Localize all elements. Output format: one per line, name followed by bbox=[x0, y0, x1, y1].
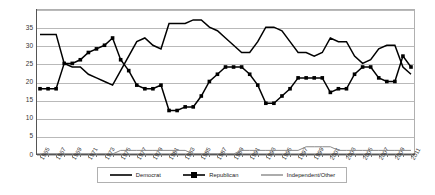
series-marker bbox=[240, 65, 244, 69]
series-marker bbox=[248, 72, 252, 76]
series-marker bbox=[151, 87, 155, 91]
series-marker bbox=[401, 54, 405, 58]
series-marker bbox=[79, 58, 83, 62]
series-marker bbox=[216, 72, 220, 76]
y-tick-label: 15 bbox=[3, 96, 33, 103]
series-marker bbox=[95, 47, 99, 51]
series-marker bbox=[353, 72, 357, 76]
legend-label-democrat: Democrat bbox=[136, 172, 161, 178]
series-marker bbox=[377, 76, 381, 80]
series-marker bbox=[393, 80, 397, 84]
independent-line-swatch-icon bbox=[260, 171, 284, 179]
series-marker bbox=[159, 83, 163, 87]
series-marker bbox=[200, 94, 204, 98]
series-marker bbox=[385, 80, 389, 84]
series-marker bbox=[288, 87, 292, 91]
series-marker bbox=[62, 62, 66, 66]
series-marker bbox=[409, 65, 413, 69]
y-tick-label: 10 bbox=[3, 114, 33, 121]
series-lines bbox=[36, 9, 415, 154]
series-marker bbox=[232, 65, 236, 69]
series-marker bbox=[312, 76, 316, 80]
series-marker bbox=[103, 43, 107, 47]
y-tick-label: 20 bbox=[3, 78, 33, 85]
series-marker bbox=[345, 87, 349, 91]
series-marker bbox=[119, 58, 123, 62]
y-tick-label: 5 bbox=[3, 132, 33, 139]
series-marker bbox=[304, 76, 308, 80]
series-marker bbox=[256, 83, 260, 87]
series-marker bbox=[54, 87, 58, 91]
series-marker bbox=[264, 101, 268, 105]
line-chart: 05101520253035 1965196719691971197319751… bbox=[0, 0, 435, 195]
y-tick-label: 35 bbox=[3, 24, 33, 31]
series-marker bbox=[143, 87, 147, 91]
series-marker bbox=[167, 109, 171, 113]
legend-entry-democrat: Democrat bbox=[109, 171, 161, 179]
democrat-line-swatch-icon bbox=[109, 171, 133, 179]
series-marker bbox=[329, 91, 333, 95]
y-tick-label: 30 bbox=[3, 42, 33, 49]
series-marker bbox=[191, 105, 195, 109]
legend-entry-republican: Republican bbox=[182, 171, 238, 179]
series-marker bbox=[38, 87, 42, 91]
series-marker bbox=[111, 36, 115, 40]
republican-line-marker-swatch-icon bbox=[182, 171, 206, 179]
series-marker bbox=[224, 65, 228, 69]
series-marker bbox=[183, 105, 187, 109]
legend-label-independent: Independent/Other bbox=[287, 172, 335, 178]
y-tick-label: 25 bbox=[3, 60, 33, 67]
series-marker bbox=[369, 65, 373, 69]
series-marker bbox=[175, 109, 179, 113]
series-marker bbox=[296, 76, 300, 80]
series-marker bbox=[280, 94, 284, 98]
legend-entry-independent: Independent/Other bbox=[260, 171, 335, 179]
series-marker bbox=[361, 65, 365, 69]
series-marker bbox=[127, 69, 131, 73]
legend-label-republican: Republican bbox=[209, 172, 238, 178]
series-marker bbox=[337, 87, 341, 91]
series-marker bbox=[320, 76, 324, 80]
series-marker bbox=[272, 101, 276, 105]
series-marker bbox=[208, 80, 212, 84]
series-marker bbox=[135, 83, 139, 87]
series-marker bbox=[87, 51, 91, 55]
chart-legend: Democrat Republican Independent/Other bbox=[97, 167, 347, 183]
series-marker bbox=[46, 87, 50, 91]
series-line-independent-other bbox=[40, 147, 411, 154]
series-marker bbox=[70, 62, 74, 66]
